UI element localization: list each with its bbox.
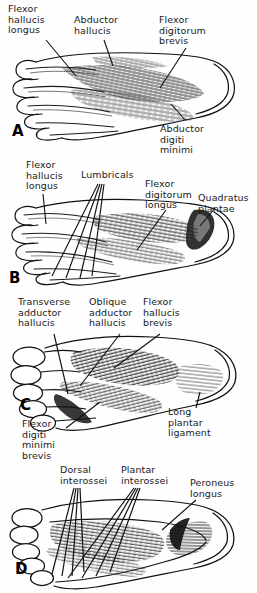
panel-letter-b: B: [9, 269, 20, 287]
panel-d-fourth-layer: Dorsal interossei Plantar interossei Per…: [0, 460, 257, 593]
panel-letter-a: A: [12, 122, 24, 140]
label-plantar-interossei: Plantar interossei: [121, 465, 168, 486]
label-flexor-hallucis-longus-b: Flexor hallucis longus: [26, 160, 63, 192]
panel-letter-d: D: [15, 560, 27, 578]
label-quadratus-plantae: Quadratus plantae: [198, 193, 249, 214]
label-oblique-adductor-hallucis: Oblique adductor hallucis: [89, 297, 132, 329]
label-lumbricals: Lumbricals: [81, 170, 134, 181]
panel-c-third-layer: Transverse adductor hallucis Oblique add…: [0, 288, 257, 460]
label-flexor-hallucis-brevis: Flexor hallucis brevis: [143, 297, 180, 329]
leader-flexor-hallucis-longus-b: [43, 194, 46, 224]
label-abductor-hallucis-a: Abductor hallucis: [74, 15, 118, 36]
label-transverse-adductor-hallucis: Transverse adductor hallucis: [18, 297, 70, 329]
label-peroneus-longus: Peroneus longus: [190, 478, 234, 499]
panel-b-second-layer: Flexor hallucis longus Lumbricals Flexor…: [0, 152, 257, 288]
label-dorsal-interossei: Dorsal interossei: [60, 465, 107, 486]
foot-anatomy-figure: Flexor hallucis longus Abductor hallucis…: [0, 0, 257, 593]
label-flexor-digitorum-brevis-a: Flexor digitorum brevis: [159, 15, 206, 47]
label-flexor-digitorum-longus: Flexor digitorum longus: [145, 179, 192, 211]
panel-letter-c: C: [20, 396, 31, 414]
leader-lumbricals-fan: [52, 184, 104, 278]
label-abductor-digiti-minimi-a: Abductor digiti minimi: [160, 124, 204, 156]
label-long-plantar-ligament: Long plantar ligament: [168, 407, 211, 439]
panel-a-first-layer: Flexor hallucis longus Abductor hallucis…: [0, 0, 257, 152]
label-flexor-hallucis-longus-a: Flexor hallucis longus: [8, 4, 45, 36]
label-flexor-digiti-minimi-brevis: Flexor digiti minimi brevis: [22, 419, 55, 461]
